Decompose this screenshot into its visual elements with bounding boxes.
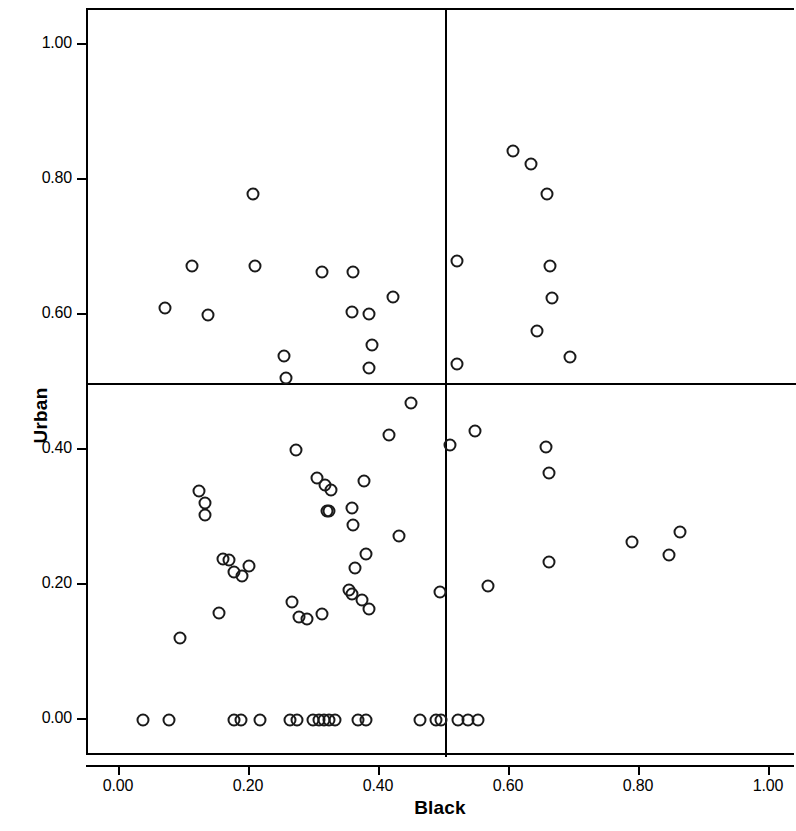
y-axis-tick bbox=[77, 43, 86, 45]
y-axis-tick-label: 1.00 bbox=[42, 34, 72, 52]
data-point bbox=[346, 266, 359, 279]
y-axis-tick bbox=[77, 583, 86, 585]
data-point bbox=[626, 535, 639, 548]
plot-area bbox=[86, 8, 794, 755]
data-point bbox=[280, 372, 293, 385]
data-point bbox=[404, 396, 417, 409]
data-point bbox=[444, 438, 457, 451]
data-point bbox=[346, 502, 359, 515]
data-point bbox=[289, 444, 302, 457]
x-axis-tick-label: 0.80 bbox=[623, 777, 653, 795]
data-point bbox=[277, 349, 290, 362]
y-axis-tick bbox=[77, 178, 86, 180]
data-point bbox=[524, 158, 537, 171]
data-point bbox=[539, 440, 552, 453]
data-point bbox=[359, 714, 372, 727]
data-point bbox=[199, 509, 212, 522]
x-axis-tick bbox=[768, 765, 770, 775]
data-point bbox=[366, 338, 379, 351]
data-point bbox=[564, 350, 577, 363]
data-point bbox=[234, 714, 247, 727]
data-point bbox=[346, 518, 359, 531]
data-point bbox=[253, 714, 266, 727]
data-point bbox=[300, 612, 313, 625]
x-axis-tick bbox=[378, 765, 380, 775]
data-point bbox=[543, 260, 556, 273]
y-axis-tick-label: 0.40 bbox=[42, 439, 72, 457]
data-point bbox=[392, 530, 405, 543]
data-point bbox=[543, 556, 556, 569]
data-point bbox=[348, 562, 361, 575]
data-point bbox=[357, 475, 370, 488]
data-point bbox=[435, 714, 448, 727]
data-point bbox=[545, 292, 558, 305]
data-point bbox=[247, 187, 260, 200]
data-point bbox=[158, 301, 171, 314]
data-point bbox=[243, 560, 256, 573]
data-point bbox=[322, 504, 335, 517]
data-point bbox=[248, 260, 261, 273]
data-point bbox=[387, 291, 400, 304]
data-point bbox=[362, 603, 375, 616]
data-point bbox=[285, 595, 298, 608]
x-axis-line bbox=[86, 765, 794, 767]
data-point bbox=[481, 580, 494, 593]
x-axis-tick-label: 1.00 bbox=[753, 777, 783, 795]
data-point bbox=[362, 307, 375, 320]
data-point bbox=[324, 483, 337, 496]
data-point bbox=[383, 429, 396, 442]
y-axis-tick-label: 0.20 bbox=[42, 574, 72, 592]
reference-line-horizontal bbox=[88, 383, 796, 385]
data-point bbox=[315, 266, 328, 279]
data-point bbox=[346, 305, 359, 318]
data-point bbox=[451, 358, 464, 371]
y-axis-tick-label: 0.00 bbox=[42, 709, 72, 727]
data-point bbox=[212, 606, 225, 619]
data-point bbox=[360, 547, 373, 560]
data-point bbox=[468, 425, 481, 438]
data-point bbox=[202, 309, 215, 322]
data-point bbox=[451, 255, 464, 268]
x-axis-tick-label: 0.20 bbox=[233, 777, 263, 795]
reference-line-vertical bbox=[445, 10, 447, 757]
data-point bbox=[462, 714, 475, 727]
x-axis-tick-label: 0.00 bbox=[103, 777, 133, 795]
data-point bbox=[362, 362, 375, 375]
data-point bbox=[173, 632, 186, 645]
data-point bbox=[541, 187, 554, 200]
data-point bbox=[192, 484, 205, 497]
x-axis-tick-label: 0.40 bbox=[363, 777, 393, 795]
x-axis-title: Black bbox=[86, 797, 794, 819]
data-point bbox=[185, 260, 198, 273]
x-axis-tick bbox=[118, 765, 120, 775]
data-point bbox=[530, 325, 543, 338]
data-point bbox=[162, 714, 175, 727]
x-axis-tick bbox=[248, 765, 250, 775]
data-point bbox=[414, 714, 427, 727]
y-axis-tick bbox=[77, 313, 86, 315]
data-point bbox=[290, 714, 303, 727]
data-point bbox=[198, 496, 211, 509]
y-axis-tick-label: 0.60 bbox=[42, 304, 72, 322]
data-point bbox=[663, 548, 676, 561]
y-axis-tick bbox=[77, 448, 86, 450]
x-axis-tick-label: 0.60 bbox=[493, 777, 523, 795]
x-axis-tick bbox=[638, 765, 640, 775]
data-point bbox=[543, 466, 556, 479]
data-point bbox=[315, 608, 328, 621]
y-axis-tick bbox=[77, 718, 86, 720]
y-axis-tick-label: 0.80 bbox=[42, 169, 72, 187]
y-axis: 0.000.200.400.600.801.00 bbox=[0, 0, 86, 831]
data-point bbox=[137, 714, 150, 727]
data-point bbox=[674, 526, 687, 539]
x-axis-tick bbox=[508, 765, 510, 775]
data-point bbox=[328, 714, 341, 727]
data-point bbox=[434, 586, 447, 599]
data-point bbox=[507, 144, 520, 157]
